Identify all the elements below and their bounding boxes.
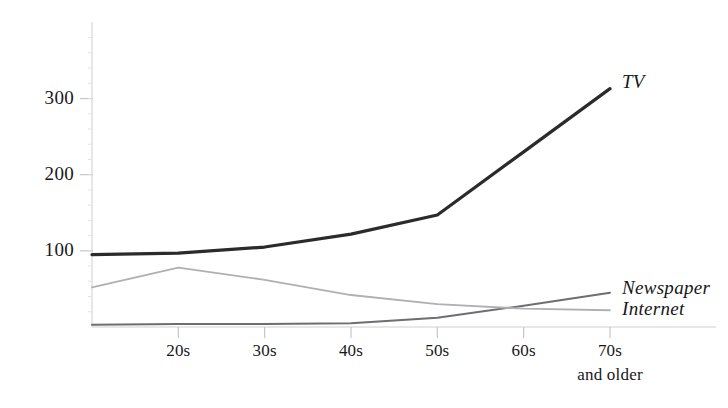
y-tick-label-200: 200 <box>16 163 74 185</box>
line-chart: 300 200 100 20s 30s 40s 50s 60s 70s and … <box>0 0 728 408</box>
series-label-tv: TV <box>622 71 645 93</box>
series-label-newspaper: Newspaper <box>622 277 710 299</box>
series-line-tv <box>92 89 610 255</box>
x-axis-ticks <box>178 327 610 338</box>
x-tick-label-50s: 50s <box>402 341 472 361</box>
data-series-group <box>92 89 610 325</box>
x-tick-label-30s: 30s <box>230 341 300 361</box>
x-tick-sublabel-and-older: and older <box>555 365 665 385</box>
x-tick-label-40s: 40s <box>316 341 386 361</box>
x-tick-label-70s: 70s <box>575 341 645 361</box>
y-tick-label-300: 300 <box>16 87 74 109</box>
series-label-internet: Internet <box>622 298 685 320</box>
x-tick-label-20s: 20s <box>143 341 213 361</box>
y-axis-minor-marks <box>88 38 92 312</box>
y-tick-label-100: 100 <box>16 239 74 261</box>
axes-group <box>80 22 716 338</box>
x-tick-label-60s: 60s <box>489 341 559 361</box>
